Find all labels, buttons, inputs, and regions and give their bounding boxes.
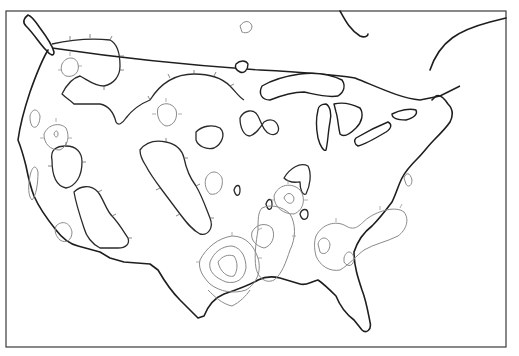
minor-contour-texas-mid (210, 246, 246, 282)
major-contour-great-basin (52, 146, 82, 188)
minor-contour-olympic (61, 58, 78, 76)
minor-contour-colorado (205, 172, 222, 194)
map-frame (6, 11, 506, 347)
minor-contour-missouri-ring-outer (274, 185, 303, 214)
coastline-vancouver-island (24, 15, 54, 55)
lake-michigan (317, 104, 331, 150)
lake-huron (334, 103, 362, 135)
minor-contour-montana (240, 22, 252, 33)
coastline-hudson-bay-island (340, 11, 368, 37)
coastline-newfoundland (430, 18, 506, 70)
minor-contour-alabama-loop (318, 238, 330, 254)
major-contour-small-1 (234, 186, 240, 196)
lake-winnipeg-edge (235, 61, 248, 73)
major-contour-plains-loop (196, 126, 223, 149)
minor-contour-gulf-loop (255, 206, 294, 281)
minor-contour-texas-inner (218, 255, 237, 276)
minor-contour-carolina (404, 174, 412, 186)
minor-contour-idaho (157, 104, 176, 126)
major-contour-front-range (140, 141, 211, 234)
contour-map (0, 0, 519, 356)
major-contour-ozark (284, 165, 310, 195)
lake-ontario (392, 109, 417, 120)
minor-contour-cascade-ring-inner (54, 131, 58, 137)
minor-contour-cascade-1 (30, 110, 40, 127)
lake-erie (355, 122, 391, 146)
minor-contour-oklahoma-ring (252, 225, 274, 248)
major-contour-small-2 (266, 200, 272, 210)
minor-contour-missouri-ring-inner (284, 194, 294, 204)
canada-border (52, 48, 460, 100)
lake-superior (260, 73, 344, 100)
major-contour-small-3 (300, 210, 308, 220)
major-contour-dakota-figure8 (240, 111, 279, 136)
major-contour-rockies (74, 187, 129, 248)
